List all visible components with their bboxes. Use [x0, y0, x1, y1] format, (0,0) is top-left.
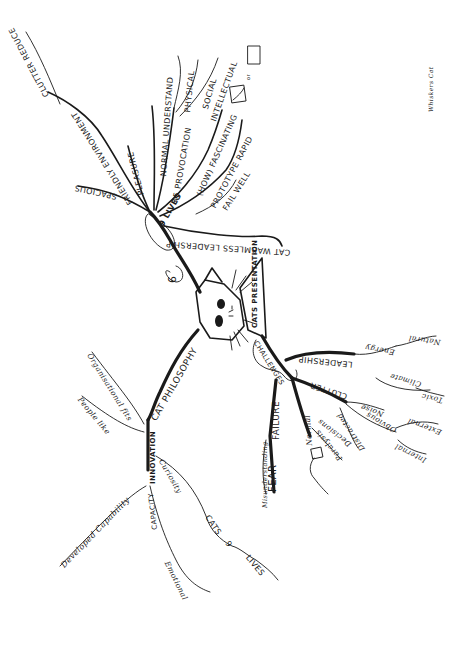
node-failure: FAILURE — [272, 401, 281, 440]
cat-face-icon — [196, 268, 256, 350]
branch-label-presentation: CATS PRESENTATION — [252, 240, 259, 328]
node-normal: Normal — [304, 415, 314, 446]
node-fear: FEAR — [268, 465, 278, 492]
or-text: or — [246, 74, 251, 80]
svg-text:9: 9 — [165, 276, 178, 283]
node-misunderstanding: Misunderstanding — [262, 441, 269, 508]
signature: Whiskers Cat — [428, 67, 434, 112]
node-innovation: INNOVATION — [150, 431, 157, 484]
